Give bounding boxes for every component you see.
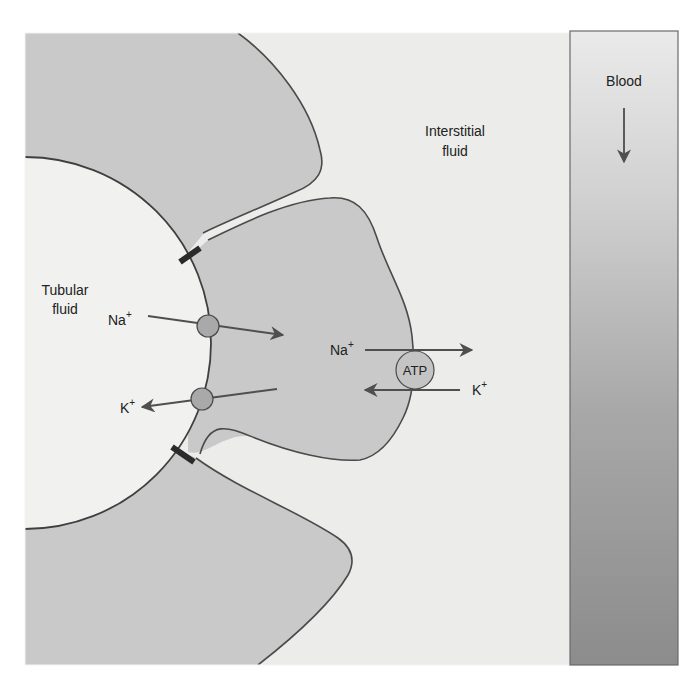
interstitial-fluid-label-line1: Interstitial — [425, 123, 485, 139]
tubular-fluid-label-line2: fluid — [52, 301, 78, 317]
apical-k-charge: + — [129, 397, 135, 408]
pump-na-charge: + — [348, 339, 354, 350]
blood-label: Blood — [606, 73, 642, 89]
pump-na-symbol: Na — [330, 342, 348, 358]
interstitial-fluid-label-line2: fluid — [442, 143, 468, 159]
atp-label: ATP — [403, 363, 427, 378]
tubular-fluid-label-line1: Tubular — [42, 282, 89, 298]
apical-na-charge: + — [126, 309, 132, 320]
apical-na-symbol: Na — [108, 312, 126, 328]
apical-k-channel — [191, 388, 213, 410]
pump-k-charge: + — [481, 379, 487, 390]
apical-na-channel — [197, 315, 219, 337]
nephron-transport-diagram: Blood Interstitial fluid Tubular fluid N… — [0, 0, 693, 693]
